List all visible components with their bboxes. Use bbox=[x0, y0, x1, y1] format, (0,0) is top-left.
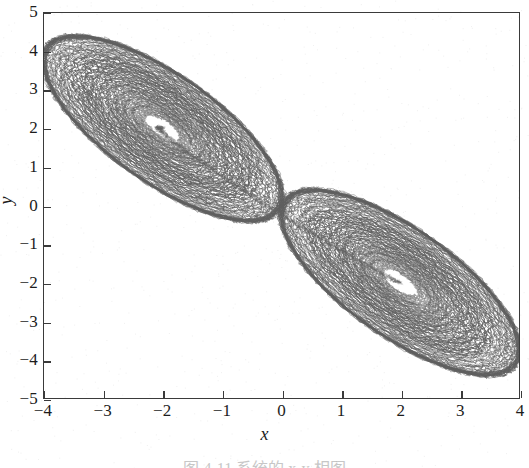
y-tick bbox=[44, 129, 51, 130]
x-axis-title: x bbox=[0, 424, 529, 445]
x-tick bbox=[223, 391, 224, 398]
y-tick bbox=[44, 323, 51, 324]
figure-root: −4−3−2−101234 543210−1−2−3−4−5 x y 图 4-1… bbox=[0, 0, 529, 468]
y-tick-label: −3 bbox=[0, 313, 38, 331]
y-tick-label: −5 bbox=[0, 390, 38, 408]
y-tick-label: −4 bbox=[0, 351, 38, 369]
x-tick bbox=[104, 391, 105, 398]
y-tick-label: −1 bbox=[0, 235, 38, 253]
attractor-plot bbox=[44, 13, 519, 398]
y-tick-label: −2 bbox=[0, 274, 38, 292]
y-tick-label: 2 bbox=[0, 119, 38, 137]
x-tick-label: −1 bbox=[202, 401, 242, 421]
x-tick-label: −3 bbox=[83, 401, 123, 421]
x-tick bbox=[461, 391, 462, 398]
x-tick-label: 4 bbox=[500, 401, 529, 421]
y-axis-title: y bbox=[0, 197, 17, 205]
figure-caption-strip: 图 4-11 系统的 x-y 相图 bbox=[0, 459, 529, 468]
y-tick bbox=[44, 361, 51, 362]
y-tick bbox=[44, 284, 51, 285]
y-tick bbox=[44, 245, 51, 246]
y-tick-label: 5 bbox=[0, 3, 38, 21]
x-tick-label: 3 bbox=[440, 401, 480, 421]
x-tick-label: 2 bbox=[381, 401, 421, 421]
x-tick bbox=[521, 391, 522, 398]
y-tick-label: 4 bbox=[0, 42, 38, 60]
x-tick bbox=[283, 391, 284, 398]
y-tick bbox=[44, 52, 51, 53]
attractor-trajectory bbox=[44, 33, 519, 379]
x-tick bbox=[342, 391, 343, 398]
x-tick-label: 1 bbox=[321, 401, 361, 421]
y-tick bbox=[44, 168, 51, 169]
x-tick bbox=[163, 391, 164, 398]
figure-caption: 图 4-11 系统的 x-y 相图 bbox=[0, 459, 529, 468]
y-tick-label: 3 bbox=[0, 80, 38, 98]
x-tick-label: 0 bbox=[262, 401, 302, 421]
y-tick bbox=[44, 13, 51, 14]
y-tick bbox=[44, 90, 51, 91]
y-tick bbox=[44, 207, 51, 208]
x-tick bbox=[44, 391, 45, 398]
plot-frame bbox=[43, 12, 520, 399]
x-tick-label: −2 bbox=[142, 401, 182, 421]
x-tick bbox=[402, 391, 403, 398]
y-tick-label: 1 bbox=[0, 158, 38, 176]
